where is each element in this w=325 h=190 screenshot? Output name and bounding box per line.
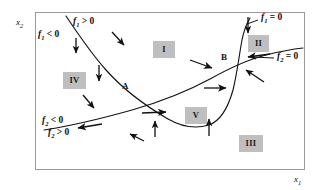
region-iii-box: III bbox=[239, 135, 263, 152]
point-b-label: B bbox=[221, 53, 227, 62]
y-axis-label: x2 bbox=[16, 18, 23, 29]
f2-negative-label: f2 < 0 bbox=[42, 116, 63, 127]
region-v-label: V bbox=[193, 111, 199, 120]
region-iv-label: IV bbox=[69, 76, 79, 85]
region-ii-box: II bbox=[248, 35, 269, 52]
f1-nullcline-label: f1 = 0 bbox=[261, 13, 282, 24]
x-axis-label: x1 bbox=[294, 175, 301, 186]
region-v-box: V bbox=[185, 107, 207, 124]
region-iv-box: IV bbox=[63, 72, 86, 89]
region-ii-label: II bbox=[255, 39, 262, 48]
f2-nullcline-label: f2 = 0 bbox=[277, 52, 298, 63]
f2-positive-label: f2 > 0 bbox=[48, 128, 69, 139]
region-i-box: I bbox=[153, 41, 175, 58]
f1-negative-label: f1 < 0 bbox=[38, 30, 59, 41]
figure-canvas: x2 x1 f1 < 0 f1 > 0 f2 < 0 f2 > 0 f1 = 0… bbox=[0, 0, 325, 190]
region-i-label: I bbox=[162, 45, 166, 54]
region-iii-label: III bbox=[246, 139, 257, 148]
f1-positive-label: f1 > 0 bbox=[73, 17, 94, 28]
point-a-label: A bbox=[122, 82, 129, 91]
